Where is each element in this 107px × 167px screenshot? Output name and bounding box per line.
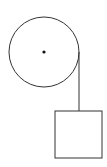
pulley-diagram bbox=[0, 0, 107, 167]
hanging-block bbox=[55, 111, 102, 158]
pulley-axle bbox=[42, 50, 45, 53]
